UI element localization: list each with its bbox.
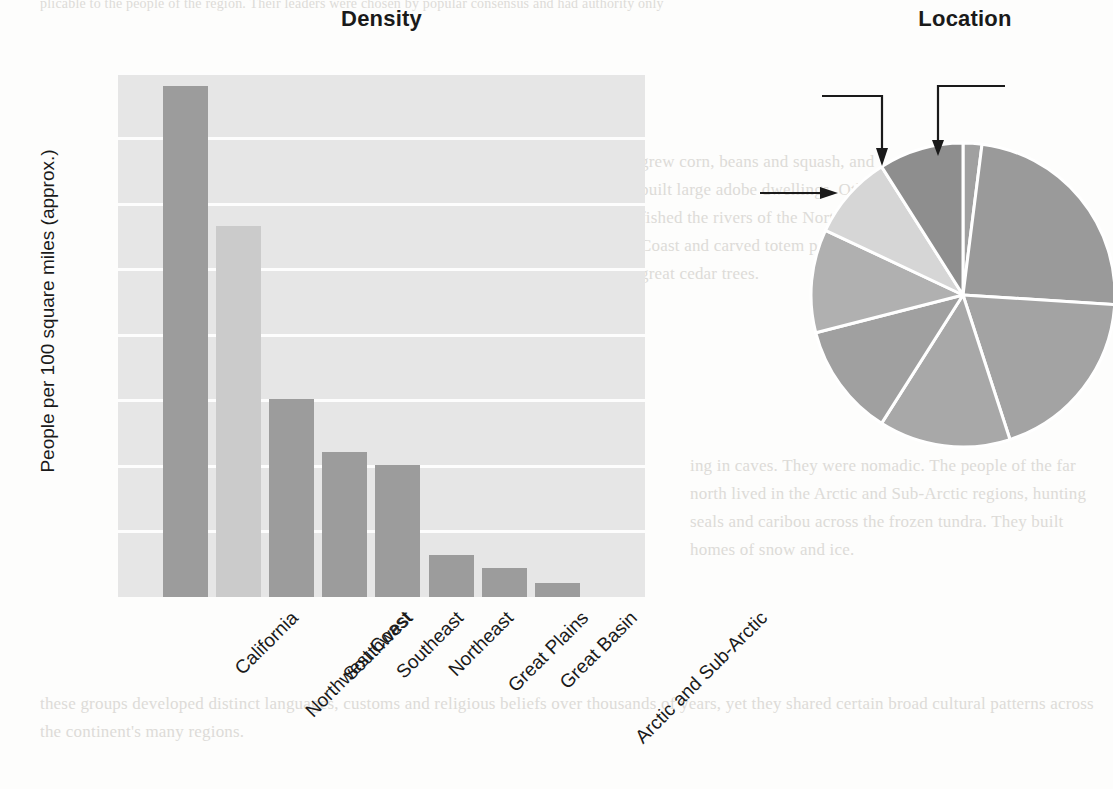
pie-slice-group bbox=[811, 143, 1113, 447]
callout-line-arctic bbox=[822, 96, 882, 148]
pie-slice-southwest bbox=[963, 144, 1113, 304]
callout-arrow-northwest-coast bbox=[820, 187, 838, 199]
callout-line-great-basin bbox=[938, 86, 1005, 140]
pie-chart-graphic bbox=[0, 0, 1113, 789]
figure-page: plicable to the people of the region. Th… bbox=[0, 0, 1113, 789]
location-pie-chart: Location Southwest 24% Northeast 19% bbox=[660, 0, 1113, 789]
